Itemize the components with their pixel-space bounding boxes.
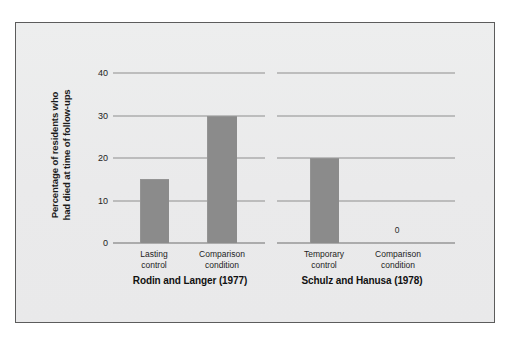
- gridline-40: [277, 73, 455, 74]
- y-tick-label-30: 30: [88, 111, 108, 121]
- gridline-40: [113, 73, 265, 74]
- gridline-20: [277, 158, 455, 159]
- panel-title-schulz-hanusa: Schulz and Hanusa (1978): [247, 275, 477, 286]
- category-label-comparison-condition-left: Comparison condition: [176, 249, 268, 271]
- bar-temporary-control: [310, 158, 339, 243]
- y-tick-label-20: 20: [88, 153, 108, 163]
- gridline-20: [113, 158, 265, 159]
- y-axis-title-line2: had died at time of follow-ups: [61, 89, 74, 220]
- bar-value-label-comparison-condition-right: 0: [395, 225, 400, 235]
- category-label-comparison-condition-right: Comparison condition: [352, 249, 444, 271]
- category-label-line2: condition: [176, 260, 268, 271]
- y-axis-title-line1: Percentage of residents who: [49, 92, 62, 219]
- axis-baseline: [277, 243, 455, 244]
- gridline-30: [277, 115, 455, 116]
- y-tick-label-40: 40: [88, 68, 108, 78]
- y-tick-label-10: 10: [88, 196, 108, 206]
- gridline-10: [113, 200, 265, 201]
- panel-schulz-hanusa: [277, 73, 455, 243]
- category-label-line1: Comparison: [352, 249, 444, 260]
- y-tick-label-0: 0: [88, 238, 108, 248]
- gridline-30: [113, 115, 265, 116]
- y-axis-title: Percentage of residents who had died at …: [44, 60, 78, 250]
- gridline-10: [277, 200, 455, 201]
- category-label-line2: condition: [352, 260, 444, 271]
- bar-lasting-control: [140, 179, 169, 243]
- category-label-line1: Comparison: [176, 249, 268, 260]
- panel-rodin-langer: [113, 73, 265, 243]
- bar-comparison-condition: [207, 116, 237, 244]
- axis-baseline: [113, 243, 265, 244]
